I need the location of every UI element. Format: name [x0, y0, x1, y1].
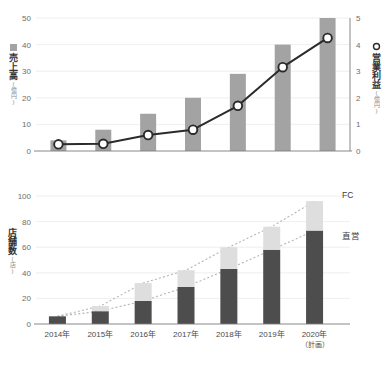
- top-chart-left-axis-unit: (億円): [10, 81, 17, 105]
- svg-text:4: 4: [356, 41, 361, 50]
- top-chart-right-axis-title: 営業利益: [371, 53, 381, 89]
- svg-text:2018年: 2018年: [216, 329, 242, 339]
- svg-text:2016年: 2016年: [130, 329, 156, 339]
- svg-text:2019年: 2019年: [259, 329, 285, 339]
- top-chart-left-axis-title: 売上高: [8, 53, 18, 80]
- bottom-chart-axis-title-block: 店舗数 (店): [2, 228, 22, 274]
- bottom-chart-axis-unit: (店): [9, 256, 16, 274]
- svg-text:（計画）: （計画）: [301, 340, 329, 349]
- svg-text:2017年: 2017年: [173, 329, 199, 339]
- svg-text:0: 0: [27, 320, 32, 329]
- top-chart-right-ticks: 543210: [356, 14, 361, 156]
- dual-chart-figure: 50403020100 543210 売上高 (億円) 営業利益 (億円) 10…: [0, 0, 386, 371]
- top-chart-right-axis-title-block: 営業利益 (億円): [366, 42, 386, 114]
- svg-text:80: 80: [22, 218, 31, 227]
- bottom-chart-bars: [49, 201, 323, 324]
- legend-direct-label: 直営: [342, 229, 360, 241]
- bar-swatch-icon: [10, 44, 17, 51]
- circle-open-icon: [372, 42, 381, 51]
- svg-text:0: 0: [27, 147, 32, 156]
- bottom-chart-category-labels: 2014年2015年2016年2017年2018年2019年2020年（計画）: [45, 329, 329, 349]
- svg-text:1: 1: [356, 120, 361, 129]
- svg-text:40: 40: [22, 269, 31, 278]
- svg-text:2020年: 2020年: [302, 329, 328, 339]
- svg-text:50: 50: [22, 14, 31, 23]
- svg-text:2014年: 2014年: [45, 329, 71, 339]
- svg-text:2015年: 2015年: [87, 329, 113, 339]
- legend-fc-label: FC: [342, 190, 353, 200]
- sales-profit-chart: 50403020100 543210: [0, 0, 386, 182]
- svg-text:60: 60: [22, 243, 31, 252]
- svg-text:2: 2: [356, 94, 361, 103]
- store-count-chart: 100806040200 2014年2015年2016年2017年2018年20…: [0, 182, 386, 371]
- svg-text:0: 0: [356, 147, 361, 156]
- svg-text:100: 100: [18, 192, 32, 201]
- svg-text:10: 10: [22, 120, 31, 129]
- svg-text:20: 20: [22, 294, 31, 303]
- top-chart-right-axis-unit: (億円): [373, 90, 380, 114]
- svg-text:5: 5: [356, 14, 361, 23]
- top-chart-left-axis-title-block: 売上高 (億円): [2, 44, 24, 105]
- bottom-chart-axis-title: 店舗数: [7, 228, 17, 255]
- svg-text:3: 3: [356, 67, 361, 76]
